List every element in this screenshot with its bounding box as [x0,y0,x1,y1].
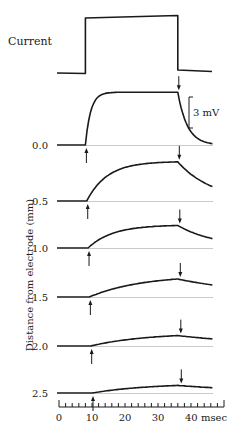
distance-label: 2.0 [32,341,48,352]
distance-label: 0.0 [32,140,48,151]
y-axis-label: Distance from electrode (mm) [24,199,35,351]
scale-bar-label: 3 mV [193,107,220,118]
figure: Current 3 mV Distance from electrode (mm… [0,0,239,442]
trace-1.0: 1.0 [32,210,212,266]
scale-bar: 3 mV [189,97,220,128]
trace-0.0: 0.0 [32,76,212,163]
x-tick-label: 20 [119,412,132,423]
trace-1.5: 1.5 [32,263,212,315]
trace-0.5: 0.5 [32,146,212,219]
voltage-traces: 0.00.51.01.52.02.5 [32,76,213,411]
trace-2.0: 2.0 [32,320,212,364]
distance-label: 2.5 [32,388,48,399]
x-tick-label: 40 msec [185,412,227,423]
x-tick-label: 0 [56,412,62,423]
distance-label: 1.5 [32,292,48,303]
distance-label: 0.5 [32,196,48,207]
x-tick-label: 30 [152,412,165,423]
chart-canvas: Current 3 mV Distance from electrode (mm… [0,0,239,442]
time-axis: 010203040 msec [56,400,228,423]
current-label: Current [8,35,53,48]
current-trace [57,16,212,74]
distance-label: 1.0 [32,243,48,254]
x-tick-label: 10 [86,412,99,423]
